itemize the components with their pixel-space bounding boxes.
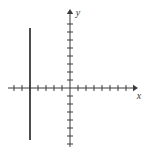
y-axis-arrowhead [67, 9, 73, 14]
y-axis-label: y [75, 7, 81, 18]
graph-figure: x y [0, 0, 150, 153]
x-axis-label: x [136, 90, 142, 101]
coordinate-plane-svg: x y [0, 0, 150, 153]
